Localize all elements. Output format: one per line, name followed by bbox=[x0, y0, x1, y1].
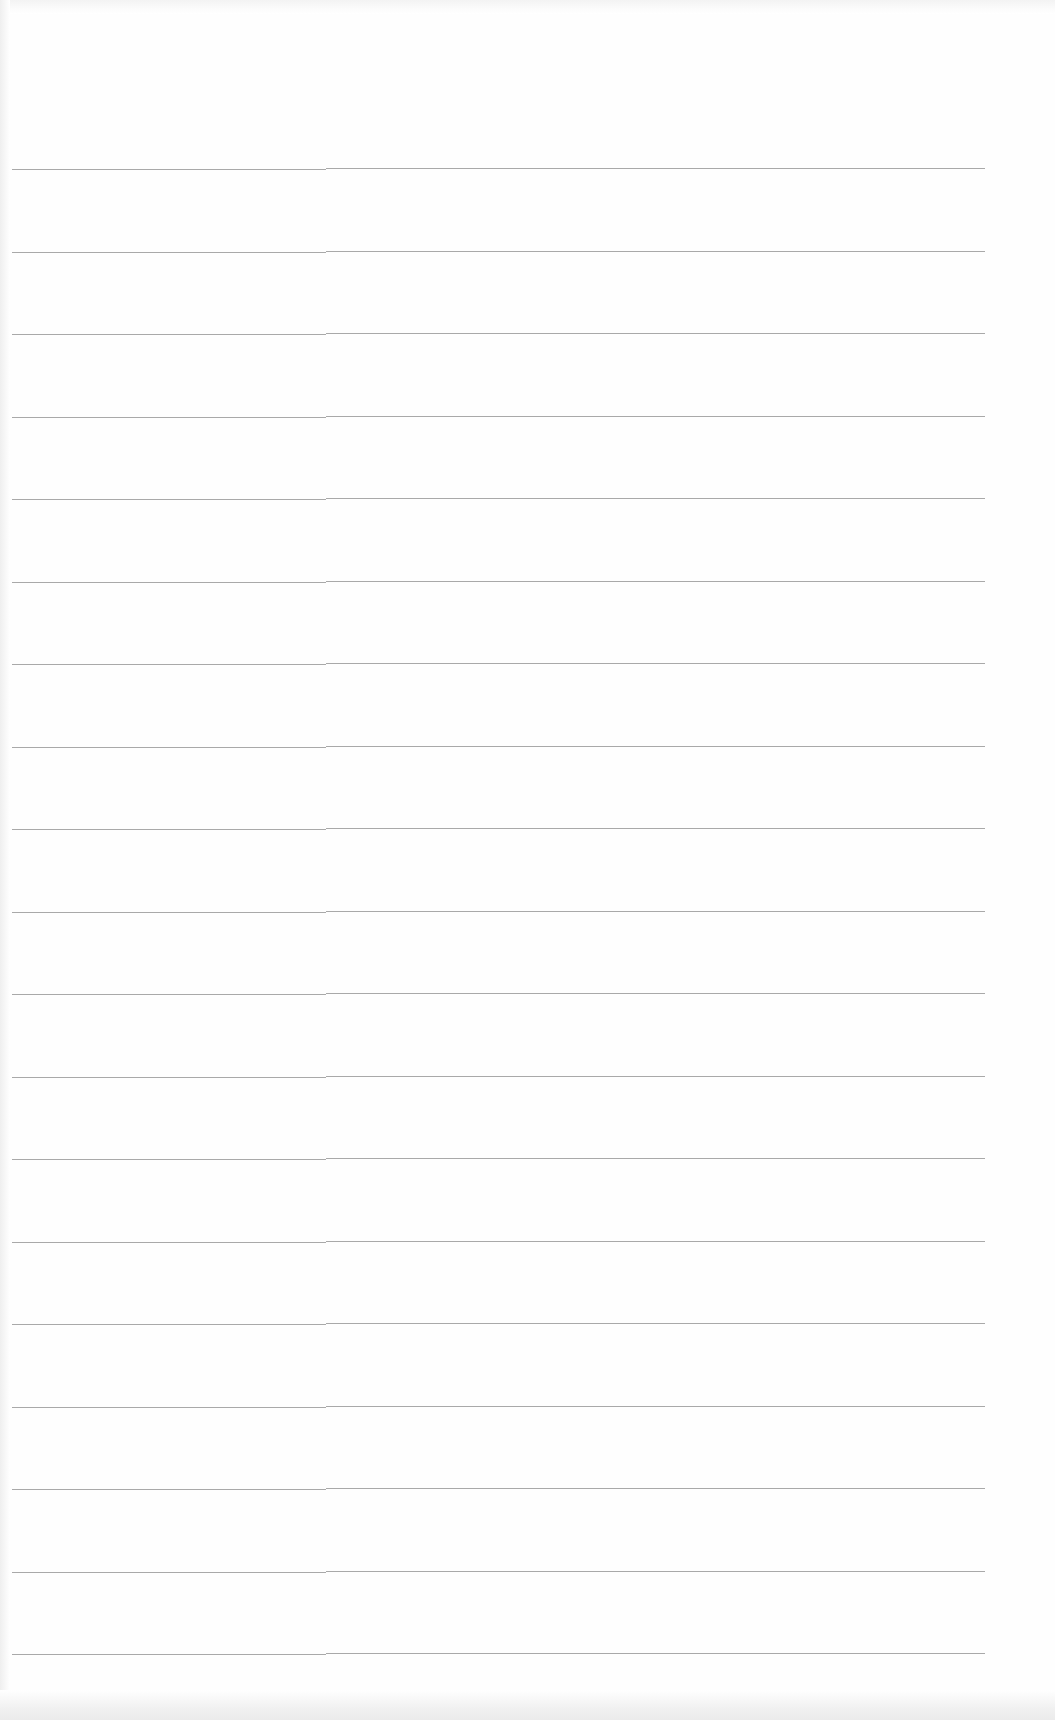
rule-line bbox=[12, 993, 985, 995]
rule-line-left-segment bbox=[12, 1324, 326, 1325]
rule-line-right-segment bbox=[326, 1323, 985, 1324]
rule-line bbox=[12, 1323, 985, 1325]
rule-line-right-segment bbox=[326, 911, 985, 912]
rule-line-left-segment bbox=[12, 417, 326, 418]
rule-line-right-segment bbox=[326, 746, 985, 747]
rule-line-right-segment bbox=[326, 581, 985, 582]
rule-line bbox=[12, 663, 985, 665]
rule-line bbox=[12, 746, 985, 748]
rule-line-left-segment bbox=[12, 664, 326, 665]
rule-line-left-segment bbox=[12, 252, 326, 253]
rule-line-right-segment bbox=[326, 663, 985, 664]
rule-line-right-segment bbox=[326, 993, 985, 994]
rule-line bbox=[12, 581, 985, 583]
rule-line bbox=[12, 1488, 985, 1490]
rule-line-left-segment bbox=[12, 1242, 326, 1243]
rule-line-left-segment bbox=[12, 499, 326, 500]
rule-line bbox=[12, 1653, 985, 1655]
rule-line-left-segment bbox=[12, 169, 326, 170]
rule-line-right-segment bbox=[326, 333, 985, 334]
rule-line-right-segment bbox=[326, 251, 985, 252]
rule-line bbox=[12, 1571, 985, 1573]
rule-line-right-segment bbox=[326, 1076, 985, 1077]
scan-edge-left bbox=[0, 0, 10, 1720]
rule-line-left-segment bbox=[12, 829, 326, 830]
rule-line-right-segment bbox=[326, 828, 985, 829]
rule-line-left-segment bbox=[12, 1654, 326, 1655]
rule-line bbox=[12, 1406, 985, 1408]
rule-line bbox=[12, 828, 985, 830]
rule-line bbox=[12, 1241, 985, 1243]
rule-line bbox=[12, 168, 985, 170]
rule-line bbox=[12, 1158, 985, 1160]
rule-line bbox=[12, 333, 985, 335]
rule-line-left-segment bbox=[12, 994, 326, 995]
rule-line-right-segment bbox=[326, 168, 985, 169]
rule-line-left-segment bbox=[12, 582, 326, 583]
rule-line-right-segment bbox=[326, 1653, 985, 1654]
rule-line-left-segment bbox=[12, 747, 326, 748]
rule-line-left-segment bbox=[12, 1489, 326, 1490]
rule-line-left-segment bbox=[12, 1159, 326, 1160]
rule-line bbox=[12, 911, 985, 913]
scan-edge-bottom bbox=[0, 1690, 1055, 1720]
rule-line-right-segment bbox=[326, 1488, 985, 1489]
rule-line bbox=[12, 498, 985, 500]
rule-line bbox=[12, 416, 985, 418]
rule-line-right-segment bbox=[326, 1571, 985, 1572]
rule-line-right-segment bbox=[326, 416, 985, 417]
rule-line-right-segment bbox=[326, 498, 985, 499]
rule-line bbox=[12, 1076, 985, 1078]
rule-line-left-segment bbox=[12, 334, 326, 335]
rule-line-right-segment bbox=[326, 1406, 985, 1407]
rule-line-left-segment bbox=[12, 1572, 326, 1573]
rule-line-left-segment bbox=[12, 1077, 326, 1078]
rule-line-right-segment bbox=[326, 1241, 985, 1242]
lined-paper-page bbox=[0, 0, 1055, 1720]
scan-edge-top bbox=[0, 0, 1055, 14]
rule-line-left-segment bbox=[12, 1407, 326, 1408]
rule-line-left-segment bbox=[12, 912, 326, 913]
rule-line-right-segment bbox=[326, 1158, 985, 1159]
rule-line bbox=[12, 251, 985, 253]
